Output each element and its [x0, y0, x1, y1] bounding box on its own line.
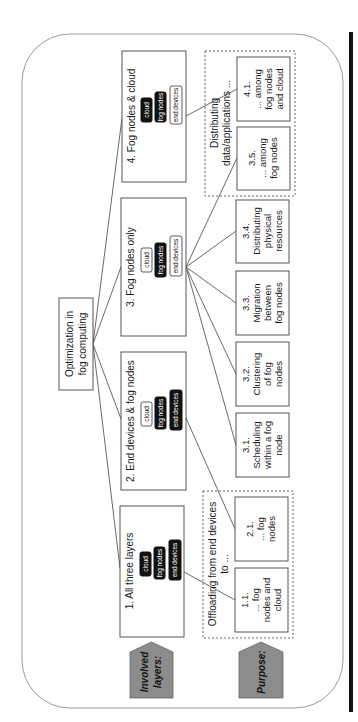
svg-text:2.1.: 2.1. — [244, 521, 255, 537]
svg-text:... fog: ... fog — [255, 517, 266, 541]
svg-text:fog nodes: fog nodes — [157, 92, 165, 121]
category-title: 1. All three layers — [124, 533, 135, 610]
purpose-3-4: 3.4. Distributing physical resources — [236, 200, 289, 263]
purpose-3-1: 3.1. Scheduling within a fog node — [236, 413, 289, 477]
svg-text:node: node — [273, 434, 284, 455]
svg-text:3.5.: 3.5. — [246, 150, 257, 166]
svg-text:between: between — [262, 285, 273, 321]
svg-text:Distributing: Distributing — [251, 207, 262, 255]
svg-text:3.1.: 3.1. — [240, 437, 251, 453]
svg-text:nodes and: nodes and — [261, 578, 272, 622]
svg-text:nodes: nodes — [273, 361, 284, 387]
tag-purpose: Purpose: — [239, 642, 283, 698]
svg-text:nodes: nodes — [266, 516, 277, 542]
svg-text:3.3.: 3.3. — [240, 295, 251, 311]
svg-text:end devices: end devices — [172, 238, 179, 273]
fog-optimization-taxonomy-diagram: Optimization in fog computing 4. Fog nod… — [0, 0, 358, 722]
purpose-3-5: 3.5. ... among fog nodes — [237, 127, 290, 190]
svg-text:and cloud: and cloud — [274, 68, 285, 109]
purpose-2-1: 2.1. ... fog nodes — [235, 497, 288, 561]
svg-text:... among: ... among — [252, 69, 263, 109]
group-label: Offloading from end devices — [207, 502, 218, 626]
svg-text:1.1.: 1.1. — [239, 592, 250, 608]
category-3-fog-nodes-only: 3. Fog nodes only cloud fog nodes end de… — [121, 198, 186, 336]
root-line2: fog computing — [77, 313, 88, 376]
svg-text:... fog: ... fog — [250, 588, 261, 612]
tag-involved-layers: Involved layers: — [130, 642, 173, 698]
category-title: 3. Fog nodes only — [125, 227, 136, 307]
purpose-3-2: 3.2. Clustering of fog nodes — [236, 342, 289, 406]
root-node: Optimization in fog computing — [59, 298, 93, 390]
svg-text:physical: physical — [262, 214, 273, 248]
category-title: 2. End devices & fog nodes — [125, 360, 136, 482]
page-edge-bar — [349, 32, 353, 712]
category-2-end-devices-and-fog-nodes: 2. End devices & fog nodes cloud fog nod… — [121, 352, 186, 490]
svg-text:cloud: cloud — [272, 589, 283, 612]
category-1-all-three-layers: 1. All three layers cloud fog nodes end … — [120, 506, 184, 637]
svg-text:layers:: layers: — [152, 656, 163, 688]
root-line1: Optimization in — [64, 311, 75, 377]
svg-text:4.1.: 4.1. — [241, 81, 252, 97]
purpose-3-3: 3.3. Migration between fog nodes — [236, 271, 289, 335]
group-label: Distributing — [209, 98, 220, 148]
group-label: to ... — [219, 554, 230, 573]
group-label: data/applications ... — [221, 80, 232, 166]
svg-text:fog nodes: fog nodes — [157, 398, 165, 427]
svg-text:Clustering: Clustering — [251, 353, 262, 396]
svg-text:fog nodes: fog nodes — [157, 245, 165, 274]
svg-text:Purpose:: Purpose: — [256, 650, 267, 693]
svg-text:within a fog: within a fog — [262, 421, 273, 470]
svg-text:end devices: end devices — [171, 542, 178, 577]
svg-text:Migration: Migration — [251, 283, 262, 322]
svg-text:... among: ... among — [257, 138, 268, 178]
svg-text:fog nodes: fog nodes — [156, 548, 164, 577]
svg-text:Involved: Involved — [139, 651, 150, 692]
svg-text:fog nodes: fog nodes — [268, 137, 279, 179]
svg-text:fog nodes: fog nodes — [263, 68, 274, 110]
svg-text:cloud: cloud — [142, 556, 149, 572]
svg-text:3.2.: 3.2. — [240, 366, 251, 382]
svg-text:resources: resources — [273, 210, 284, 252]
svg-text:fog nodes: fog nodes — [273, 282, 284, 324]
purpose-1-1: 1.1. ... fog nodes and cloud — [235, 568, 288, 632]
svg-text:cloud: cloud — [143, 406, 150, 422]
category-4-fog-nodes-and-cloud: 4. Fog nodes & cloud cloud fog nodes end… — [122, 51, 186, 182]
svg-text:Scheduling: Scheduling — [251, 421, 262, 468]
purpose-4-1: 4.1. ... among fog nodes and cloud — [237, 57, 290, 121]
svg-text:end devices: end devices — [172, 392, 179, 427]
svg-text:of fog: of fog — [262, 362, 273, 386]
svg-text:end devices: end devices — [172, 87, 179, 122]
category-title: 4. Fog nodes & cloud — [126, 69, 137, 164]
svg-text:3.4.: 3.4. — [240, 223, 251, 239]
svg-text:cloud: cloud — [143, 102, 150, 118]
svg-text:cloud: cloud — [143, 252, 150, 268]
